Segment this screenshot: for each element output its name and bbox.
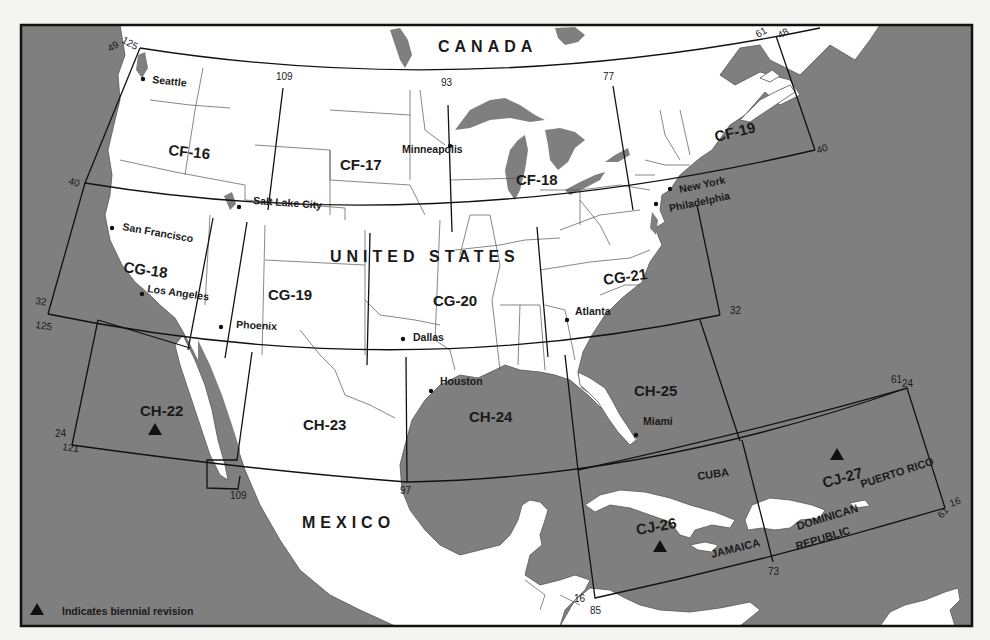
city-dot-atlanta: [565, 318, 569, 322]
svg-text:109: 109: [276, 71, 293, 82]
svg-text:16: 16: [574, 593, 586, 604]
svg-text:97: 97: [400, 485, 412, 496]
city-dot-los-angeles: [140, 292, 144, 296]
chart-label-cf-18[interactable]: CF-18: [516, 171, 558, 188]
svg-text:73: 73: [768, 566, 780, 577]
svg-text:32: 32: [35, 295, 48, 308]
city-dot-salt-lake-city: [237, 205, 241, 209]
city-dot-philadelphia: [654, 202, 658, 206]
svg-text:61: 61: [891, 374, 903, 385]
city-dot-houston: [429, 389, 433, 393]
chart-index-map: CANADA UNITED STATES MEXICO CF-16 CF-17 …: [0, 0, 990, 640]
country-label-united-states: UNITED STATES: [330, 248, 520, 265]
city-dot-san-francisco: [110, 226, 114, 230]
chart-label-cg-20[interactable]: CG-20: [433, 292, 477, 309]
legend-text: Indicates biennial revision: [62, 605, 193, 617]
chart-label-ch-23[interactable]: CH-23: [303, 416, 346, 433]
city-dot-dallas: [401, 337, 405, 341]
chart-label-ch-22[interactable]: CH-22: [140, 402, 183, 419]
svg-text:77: 77: [603, 71, 615, 82]
svg-text:109: 109: [230, 490, 247, 501]
city-dot-seattle: [141, 77, 145, 81]
city-label-minneapolis: Minneapolis: [402, 143, 463, 155]
city-dot-miami: [634, 433, 638, 437]
country-label-mexico: MEXICO: [302, 514, 395, 531]
country-label-canada: CANADA: [438, 38, 537, 55]
city-dot-new-york: [668, 187, 672, 191]
chart-label-ch-25[interactable]: CH-25: [634, 382, 677, 399]
chart-label-cf-17[interactable]: CF-17: [340, 156, 382, 173]
city-label-houston: Houston: [440, 375, 483, 387]
svg-text:85: 85: [590, 605, 602, 616]
svg-text:93: 93: [441, 77, 453, 88]
svg-text:24: 24: [902, 378, 914, 389]
svg-text:24: 24: [55, 428, 67, 439]
chart-label-cg-19[interactable]: CG-19: [268, 286, 312, 303]
city-label-atlanta: Atlanta: [575, 305, 611, 317]
city-label-phoenix: Phoenix: [236, 318, 278, 332]
city-label-dallas: Dallas: [413, 331, 444, 343]
city-dot-phoenix: [219, 325, 223, 329]
chart-label-ch-24[interactable]: CH-24: [469, 408, 513, 425]
svg-text:32: 32: [730, 305, 742, 316]
city-label-miami: Miami: [643, 415, 673, 427]
